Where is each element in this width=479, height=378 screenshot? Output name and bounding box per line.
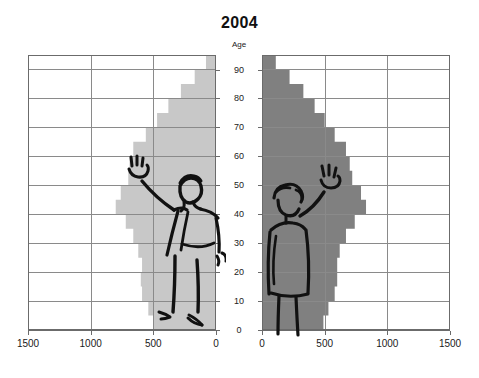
female-x-axis-line bbox=[262, 330, 450, 331]
age-tick-90: 90 bbox=[216, 65, 262, 75]
female-pyramid-panel bbox=[262, 55, 450, 330]
x-tick-label-500: 500 bbox=[131, 338, 175, 349]
age-tick-mark-left bbox=[216, 156, 220, 157]
x-tick-mark bbox=[262, 331, 263, 335]
x-tick-mark bbox=[91, 331, 92, 335]
x-tick-mark bbox=[387, 331, 388, 335]
age-tick-mark-right bbox=[258, 243, 262, 244]
x-tick-label-1000: 1000 bbox=[365, 338, 409, 349]
population-pyramid-chart: 2004 Age bbox=[0, 0, 479, 378]
age-tick-mark-left bbox=[216, 127, 220, 128]
age-tick-mark-left bbox=[216, 243, 220, 244]
age-tick-0: 0 bbox=[216, 325, 262, 335]
age-tick-mark-right bbox=[258, 185, 262, 186]
age-tick-10: 10 bbox=[216, 296, 262, 306]
female-population-area bbox=[262, 55, 450, 330]
x-tick-mark bbox=[28, 331, 29, 335]
age-tick-mark-left bbox=[216, 98, 220, 99]
age-tick-20: 20 bbox=[216, 267, 262, 277]
male-x-axis-line bbox=[28, 330, 216, 331]
x-tick-mark bbox=[325, 331, 326, 335]
age-tick-mark-left bbox=[216, 272, 220, 273]
age-tick-mark-right bbox=[258, 156, 262, 157]
x-tick-label-1500: 1500 bbox=[428, 338, 472, 349]
age-tick-mark-right bbox=[258, 70, 262, 71]
male-pyramid-panel bbox=[28, 55, 216, 330]
age-tick-50: 50 bbox=[216, 180, 262, 190]
chart-title: 2004 bbox=[0, 14, 479, 32]
x-tick-mark bbox=[153, 331, 154, 335]
age-tick-mark-left bbox=[216, 70, 220, 71]
age-axis: Age 0102030405060708090 bbox=[216, 40, 262, 340]
age-axis-title: Age bbox=[216, 40, 262, 49]
x-tick-label-0: 0 bbox=[194, 338, 238, 349]
age-tick-40: 40 bbox=[216, 209, 262, 219]
x-tick-label-1500: 1500 bbox=[6, 338, 50, 349]
x-tick-label-0: 0 bbox=[240, 338, 284, 349]
age-tick-mark-left bbox=[216, 185, 220, 186]
age-tick-30: 30 bbox=[216, 238, 262, 248]
x-tick-mark bbox=[216, 331, 217, 335]
age-tick-mark-right bbox=[258, 272, 262, 273]
age-tick-mark-right bbox=[258, 301, 262, 302]
age-tick-mark-left bbox=[216, 214, 220, 215]
age-tick-mark-right bbox=[258, 214, 262, 215]
age-tick-60: 60 bbox=[216, 151, 262, 161]
age-tick-mark-left bbox=[216, 301, 220, 302]
male-population-area bbox=[28, 55, 216, 330]
x-tick-mark bbox=[450, 331, 451, 335]
age-tick-mark-right bbox=[258, 127, 262, 128]
x-tick-label-1000: 1000 bbox=[69, 338, 113, 349]
age-tick-80: 80 bbox=[216, 93, 262, 103]
age-tick-mark-right bbox=[258, 98, 262, 99]
x-tick-label-500: 500 bbox=[303, 338, 347, 349]
age-tick-70: 70 bbox=[216, 122, 262, 132]
